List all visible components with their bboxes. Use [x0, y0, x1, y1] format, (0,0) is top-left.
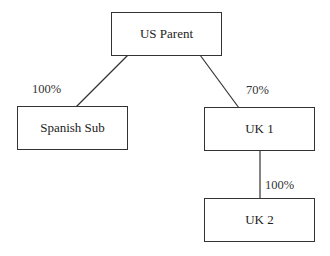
edge-us-parent-uk1	[200, 55, 239, 108]
node-label: UK 2	[245, 212, 274, 228]
node-label: UK 1	[245, 121, 274, 137]
node-label: Spanish Sub	[40, 120, 105, 136]
node-label: US Parent	[140, 26, 193, 42]
node-us-parent: US Parent	[111, 12, 222, 56]
node-uk2: UK 2	[204, 198, 315, 242]
node-spanish-sub: Spanish Sub	[17, 106, 128, 150]
edge-label-uk2: 100%	[265, 178, 294, 193]
edge-label-spanish-sub: 100%	[32, 82, 61, 97]
node-uk1: UK 1	[204, 107, 315, 151]
edge-us-parent-spanish-sub	[76, 55, 128, 107]
edge-label-uk1: 70%	[246, 83, 269, 98]
